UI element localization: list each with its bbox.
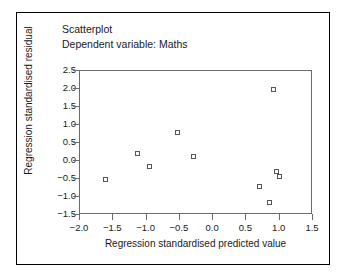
data-point bbox=[267, 200, 272, 205]
data-point bbox=[191, 154, 196, 159]
x-tick-mark bbox=[312, 214, 313, 220]
x-tick-label: −0.5 bbox=[169, 222, 188, 233]
chart-title-block: Scatterplot Dependent variable: Maths bbox=[62, 22, 312, 52]
x-tick-mark bbox=[179, 214, 180, 220]
x-tick-mark bbox=[112, 214, 113, 220]
x-tick-mark bbox=[146, 214, 147, 220]
data-point bbox=[147, 164, 152, 169]
data-point bbox=[175, 130, 180, 135]
x-tick-label: −1.5 bbox=[103, 222, 122, 233]
y-axis-tick-labels: −1.5−1.0−0.50.00.51.01.52.02.5 bbox=[46, 62, 76, 222]
x-tick-mark bbox=[212, 214, 213, 220]
x-axis-title: Regression standardised predicted value bbox=[79, 238, 312, 249]
data-point bbox=[277, 174, 282, 179]
x-tick-mark bbox=[279, 214, 280, 220]
data-point bbox=[257, 184, 262, 189]
data-point bbox=[103, 177, 108, 182]
chart-title: Scatterplot bbox=[62, 22, 312, 37]
x-tick-label: 0.5 bbox=[239, 222, 252, 233]
x-tick-mark bbox=[79, 214, 80, 220]
x-tick-mark bbox=[245, 214, 246, 220]
y-axis-title: Regression standardised residual bbox=[23, 21, 34, 181]
x-tick-label: −1.0 bbox=[136, 222, 155, 233]
scatterplot-figure: Scatterplot Dependent variable: Maths Re… bbox=[0, 0, 345, 277]
chart-subtitle: Dependent variable: Maths bbox=[62, 37, 312, 52]
data-point bbox=[271, 87, 276, 92]
x-tick-label: 0.0 bbox=[206, 222, 219, 233]
data-point bbox=[135, 151, 140, 156]
plot-area bbox=[79, 70, 312, 214]
scatter-points-layer bbox=[80, 71, 313, 215]
x-tick-label: 1.0 bbox=[272, 222, 285, 233]
x-tick-label: 1.5 bbox=[305, 222, 318, 233]
x-tick-label: −2.0 bbox=[70, 222, 89, 233]
